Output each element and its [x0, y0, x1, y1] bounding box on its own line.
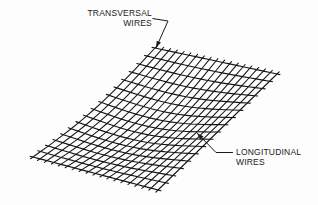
longitudinal-wires-label: LONGITUDINAL WIRES	[236, 147, 301, 167]
wire-mesh	[30, 46, 280, 192]
wire-mesh-diagram: TRANSVERSAL WIRES LONGITUDINAL WIRES	[0, 0, 318, 205]
longitudinal-leader	[197, 133, 233, 153]
transversal-leader-line	[153, 19, 169, 49]
transversal-leader-arrowhead	[156, 41, 161, 48]
transversal-leader	[153, 19, 169, 49]
longitudinal-label-line1: LONGITUDINAL	[236, 147, 301, 157]
transversal-wires-label: TRANSVERSAL WIRES	[87, 8, 152, 28]
transversal-label-line1: TRANSVERSAL	[87, 8, 152, 18]
transversal-label-line2: WIRES	[123, 18, 152, 28]
transversal-wire	[58, 52, 184, 166]
longitudinal-label-line2: WIRES	[236, 157, 265, 167]
figure-canvas: TRANSVERSAL WIRES LONGITUDINAL WIRES	[0, 0, 318, 205]
